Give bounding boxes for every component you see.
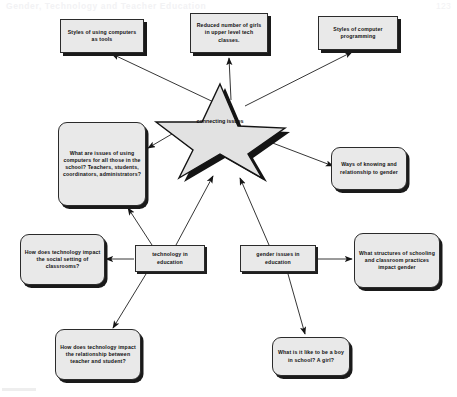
node-label: What are issues of using computers for a…	[62, 150, 142, 178]
node-what-are-issues-of-using-computers[interactable]: What are issues of using computers for a…	[58, 122, 146, 206]
node-what-structures-of-schooling[interactable]: What structures of schooling and classro…	[354, 233, 440, 288]
link-genderedu-to-boy-girl	[288, 274, 305, 334]
node-label: Reduced number of girls in upper level t…	[194, 22, 264, 43]
node-reduced-number-of-girls[interactable]: Reduced number of girls in upper level t…	[190, 13, 268, 53]
node-label: Ways of knowing and relationship to gend…	[335, 161, 403, 175]
node-gender-issues-in-education[interactable]: gender issues in education	[240, 245, 316, 272]
node-what-is-it-like-to-be-a-boy-in-school[interactable]: What is it like to be a boy in school? A…	[272, 337, 350, 376]
node-how-does-technology-impact-teacher-student[interactable]: How does technology impact the relations…	[55, 329, 141, 380]
link-techedu-to-teacher-student	[113, 274, 146, 328]
node-label: How does technology impact the relations…	[59, 344, 137, 365]
node-label: What structures of schooling and classro…	[358, 250, 436, 271]
node-styles-of-computer-programming[interactable]: Styles of computer programming	[318, 16, 398, 50]
node-label: How does technology impact the social se…	[24, 249, 101, 270]
star-label: connecting issues	[183, 118, 257, 125]
diagram-page: Gender, Technology and Teacher Education…	[0, 0, 457, 397]
node-label: What is it like to be a boy in school? A…	[276, 349, 346, 363]
link-techedu-to-star	[176, 176, 213, 245]
connecting-issues-star	[152, 78, 292, 182]
node-styles-of-using-computers-as-tools[interactable]: Styles of using computers as tools	[60, 19, 144, 53]
node-label: technology in education	[139, 251, 201, 265]
node-how-does-technology-impact-social-setting[interactable]: How does technology impact the social se…	[20, 234, 105, 285]
scan-artifact	[2, 388, 36, 391]
node-label: Styles of using computers as tools	[64, 29, 140, 43]
link-genderedu-to-star	[240, 178, 269, 245]
node-label: gender issues in education	[244, 251, 312, 265]
node-ways-of-knowing-and-relationship-to-gender[interactable]: Ways of knowing and relationship to gend…	[331, 147, 407, 190]
link-techedu-to-issues-all	[128, 208, 152, 245]
node-technology-in-education[interactable]: technology in education	[135, 245, 205, 272]
node-label: Styles of computer programming	[322, 26, 394, 40]
